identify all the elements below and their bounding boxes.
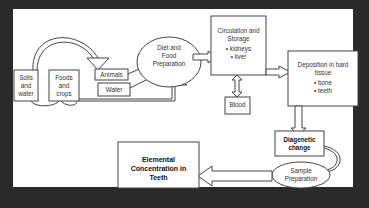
foods-label: Foods and crops	[49, 74, 79, 98]
diet-label: Diet and Food Preparation	[140, 44, 198, 68]
diagenetic-label: Diagenetic change	[275, 136, 324, 152]
arrowhead-animals	[87, 58, 109, 70]
double-arrow-circulation-blood	[232, 75, 242, 97]
water-label: Water	[98, 86, 130, 94]
soils-label: Soils and water	[14, 74, 38, 98]
blood-label: Blood	[225, 101, 250, 109]
deposition-label: Deposition in hard tissue bone teeth	[288, 61, 358, 95]
deposition-items: bone teeth	[288, 79, 358, 95]
sample-label: Sample Preparation	[272, 167, 330, 183]
block-arrow-circulation-to-deposition	[266, 66, 290, 78]
circulation-items: kidneys liver	[211, 45, 266, 61]
circulation-label: Circulation and Storage kidneys liver	[211, 27, 266, 61]
curved-arrow-soils-to-animals	[33, 38, 98, 72]
block-arrow-sample-to-elemental	[198, 166, 272, 186]
elemental-label: Elemental Concentration in Teeth	[118, 155, 199, 182]
animals-label: Animals	[95, 71, 128, 79]
